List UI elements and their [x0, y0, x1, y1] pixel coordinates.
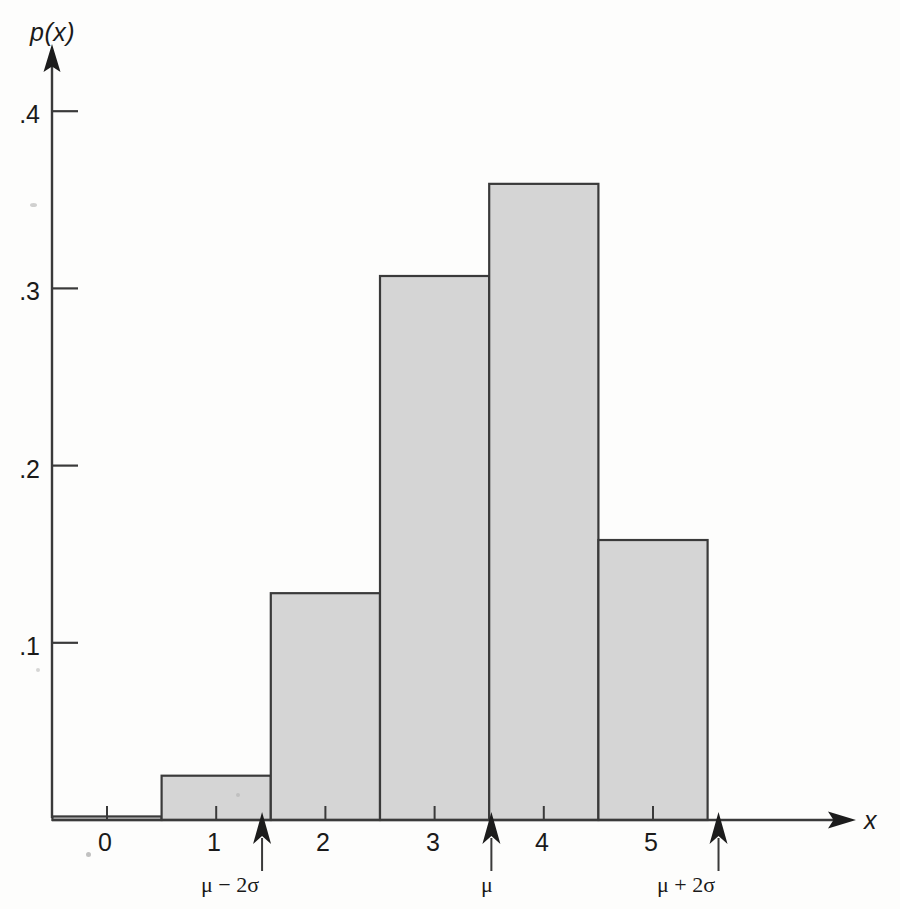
scan-speck	[30, 203, 37, 207]
bars-group	[52, 184, 707, 820]
scan-speck	[236, 793, 240, 797]
annotation-label-mu-plus-2sigma: μ + 2σ	[657, 872, 715, 898]
y-tick-marks	[52, 111, 78, 643]
annotation-label-mu-minus-2sigma: μ − 2σ	[201, 872, 259, 898]
bar-2	[271, 593, 380, 820]
x-tick-label-0: 0	[98, 828, 112, 857]
y-axis-label: p(x)	[30, 18, 75, 47]
x-tick-label-2: 2	[316, 828, 330, 857]
bar-5	[598, 540, 707, 820]
y-tick-label-3: .1	[4, 632, 40, 661]
scan-speck	[86, 852, 91, 857]
figure-histogram: p(x) x .4 .3 .2 .1 0 1 2 3 4 5 μ − 2σ μ …	[0, 0, 900, 909]
y-axis	[44, 44, 61, 818]
y-tick-label-0: .4	[4, 100, 40, 129]
bar-3	[380, 276, 489, 820]
x-axis-label: x	[864, 806, 877, 835]
histogram-plot	[0, 0, 900, 909]
annotation-label-mu: μ	[481, 872, 493, 898]
x-tick-label-4: 4	[535, 828, 549, 857]
x-tick-label-5: 5	[644, 828, 658, 857]
x-tick-label-3: 3	[426, 828, 440, 857]
scan-speck	[36, 668, 40, 672]
y-tick-label-1: .3	[4, 277, 40, 306]
bar-4	[489, 184, 598, 820]
x-tick-label-1: 1	[207, 828, 221, 857]
y-tick-label-2: .2	[4, 455, 40, 484]
